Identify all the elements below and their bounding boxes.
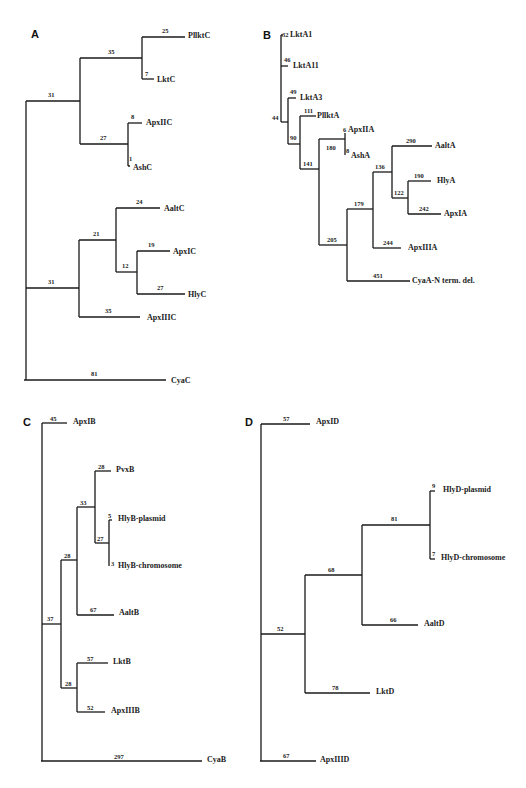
branch-length: 179 bbox=[354, 200, 365, 207]
branch-length: 52 bbox=[277, 625, 284, 632]
leaf-label: CyaA-N term. del. bbox=[412, 276, 475, 285]
branch-length: 28 bbox=[64, 552, 71, 559]
leaf-label: PllktA bbox=[317, 111, 339, 120]
branch-length: 49 bbox=[290, 88, 297, 95]
leaf-label: HlyD-chromosome bbox=[441, 553, 506, 562]
branch-length: 57 bbox=[283, 415, 290, 422]
leaf-label: ApxIIIC bbox=[147, 313, 177, 322]
leaf-label: ApxIIID bbox=[320, 755, 350, 764]
branch-length: 122 bbox=[394, 189, 404, 196]
branch-length: 290 bbox=[406, 137, 416, 144]
leaf-label: LktA1 bbox=[290, 30, 312, 39]
branch-length: 7 bbox=[432, 550, 436, 557]
leaf-label: AshC bbox=[133, 163, 152, 172]
panel-c: C 45 ApxIB 37 28 33 28 PvxB 27 5 HlyB-pl… bbox=[23, 415, 227, 764]
branch-length: 8 bbox=[131, 113, 135, 120]
branch-length: 141 bbox=[303, 160, 313, 167]
panel-b-label: B bbox=[263, 29, 271, 41]
branch-length: 31 bbox=[48, 91, 55, 98]
branch-length: 297 bbox=[114, 753, 125, 760]
branch-length: 33 bbox=[80, 499, 87, 506]
leaf-label: ApxIC bbox=[173, 247, 196, 256]
branch-length: 68 bbox=[328, 566, 335, 573]
branch-length: 28 bbox=[98, 463, 105, 470]
leaf-label: PvxB bbox=[116, 465, 135, 474]
leaf-label: AaltD bbox=[424, 619, 445, 628]
leaf-label: PllktC bbox=[188, 31, 210, 40]
branch-length: 32 bbox=[282, 31, 289, 38]
leaf-label: ApxIA bbox=[444, 209, 467, 218]
leaf-label: ApxIIIA bbox=[408, 243, 438, 252]
branch-length: 37 bbox=[47, 615, 54, 622]
panel-c-label: C bbox=[23, 416, 31, 428]
branch-length: 24 bbox=[136, 198, 143, 205]
branch-length: 1 bbox=[129, 155, 132, 162]
branch-length: 35 bbox=[105, 307, 112, 314]
branch-length: 44 bbox=[272, 114, 279, 121]
branch-length: 90 bbox=[290, 134, 297, 141]
branch-length: 190 bbox=[414, 172, 424, 179]
branch-length: 9 bbox=[432, 482, 436, 489]
leaf-label: HlyC bbox=[188, 290, 206, 299]
branch-length: 27 bbox=[157, 284, 164, 291]
leaf-label: LktB bbox=[113, 657, 131, 666]
panel-b: B 32 LktA1 46 LktA11 44 49 LktA3 90 111 … bbox=[263, 29, 475, 285]
leaf-label: CyaB bbox=[207, 755, 227, 764]
leaf-label: ApxID bbox=[316, 417, 339, 426]
branch-length: 78 bbox=[332, 684, 339, 691]
branch-length: 5 bbox=[108, 512, 112, 519]
leaf-label: AshA bbox=[351, 151, 370, 160]
panel-d: D 57 ApxID 52 68 81 9 HlyD-plasmid 7 Hly… bbox=[245, 415, 506, 764]
leaf-label: LktA11 bbox=[293, 61, 319, 70]
panel-a: A 31 35 25 PllktC 7 LktC 27 8 ApxIIC 1 A… bbox=[24, 27, 210, 385]
leaf-label: HlyB-chromosome bbox=[118, 561, 182, 570]
branch-length: 52 bbox=[87, 704, 94, 711]
branch-length: 45 bbox=[50, 415, 57, 422]
branch-length: 19 bbox=[148, 241, 155, 248]
branch-length: 7 bbox=[145, 70, 149, 77]
branch-length: 136 bbox=[375, 163, 386, 170]
branch-length: 451 bbox=[373, 272, 383, 279]
branch-length: 8 bbox=[346, 147, 350, 154]
leaf-label: AaltB bbox=[119, 608, 140, 617]
leaf-label: AaltA bbox=[435, 141, 456, 150]
panel-d-label: D bbox=[245, 416, 253, 428]
branch-length: 46 bbox=[284, 56, 291, 63]
branch-length: 25 bbox=[162, 27, 169, 34]
leaf-label: LktA3 bbox=[300, 93, 322, 102]
branch-length: 27 bbox=[97, 535, 104, 542]
leaf-label: ApxIIC bbox=[146, 118, 172, 127]
branch-length: 81 bbox=[391, 515, 398, 522]
branch-length: 57 bbox=[87, 655, 94, 662]
branch-length: 180 bbox=[326, 144, 336, 151]
leaf-label: LktD bbox=[376, 687, 394, 696]
leaf-label: ApxIB bbox=[73, 417, 96, 426]
leaf-label: HlyB-plasmid bbox=[118, 514, 166, 523]
branch-length: 244 bbox=[383, 239, 394, 246]
leaf-label: HlyD-plasmid bbox=[443, 485, 492, 494]
branch-length: 111 bbox=[304, 107, 313, 114]
branch-length: 27 bbox=[100, 134, 107, 141]
branch-length: 242 bbox=[419, 205, 429, 212]
leaf-label: CyaC bbox=[171, 376, 191, 385]
phylogenetic-trees-figure: A 31 35 25 PllktC 7 LktC 27 8 ApxIIC 1 A… bbox=[0, 0, 526, 788]
leaf-label: AaltC bbox=[164, 204, 185, 213]
branch-length: 35 bbox=[108, 48, 115, 55]
branch-length: 3 bbox=[111, 560, 115, 567]
leaf-label: LktC bbox=[157, 75, 175, 84]
branch-length: 31 bbox=[48, 278, 55, 285]
branch-length: 21 bbox=[93, 230, 100, 237]
branch-length: 12 bbox=[122, 262, 129, 269]
branch-length: 67 bbox=[90, 606, 97, 613]
leaf-label: ApxIIA bbox=[348, 125, 374, 134]
branch-length: 67 bbox=[283, 752, 290, 759]
leaf-label: HlyA bbox=[437, 176, 455, 185]
branch-length: 66 bbox=[390, 616, 397, 623]
branch-length: 6 bbox=[343, 126, 347, 133]
leaf-label: ApxIIIB bbox=[111, 706, 141, 715]
branch-length: 205 bbox=[327, 236, 338, 243]
branch-length: 28 bbox=[65, 680, 72, 687]
branch-length: 81 bbox=[91, 370, 98, 377]
panel-a-label: A bbox=[31, 28, 39, 40]
